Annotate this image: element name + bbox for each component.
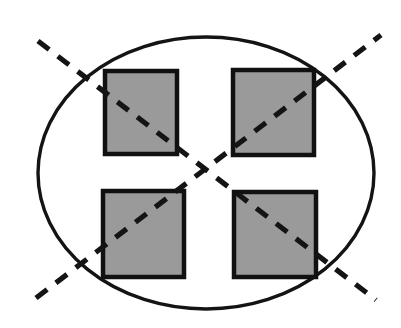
figure-canvas xyxy=(0,0,401,328)
square-bottom-right xyxy=(234,192,316,277)
square-top-right xyxy=(233,70,314,155)
figure-root xyxy=(0,0,401,328)
square-bottom-left xyxy=(103,191,184,277)
